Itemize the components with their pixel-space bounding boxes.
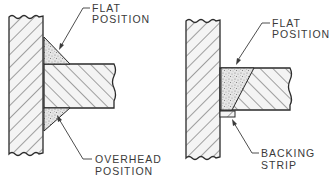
left-top-fillet-weld (44, 37, 70, 64)
left-vertical-plate-hatch (9, 16, 43, 156)
left-horizontal-plate-hatch (44, 64, 116, 108)
backing-strip-leader (234, 123, 259, 153)
backing-strip-label-line2: STRIP (261, 160, 297, 171)
backing-strip-label-line1: BACKING (261, 148, 315, 159)
backing-strip-arrowhead (232, 119, 237, 126)
left-flat-label-line2: POSITION (92, 14, 150, 25)
left-bottom-fillet-weld (44, 108, 70, 131)
left-figure (9, 8, 116, 159)
left-overhead-label-line1: OVERHEAD (95, 154, 162, 165)
right-flat-arrowhead (236, 58, 241, 65)
left-flat-leader (61, 8, 90, 46)
backing-strip-hatch (220, 111, 235, 117)
left-flat-arrowhead (59, 43, 64, 50)
left-overhead-label-line2: POSITION (95, 166, 153, 177)
right-vertical-plate-hatch (186, 20, 220, 160)
left-overhead-leader (59, 119, 92, 159)
right-flat-leader (238, 23, 270, 60)
right-figure (186, 20, 292, 160)
right-flat-label-line2: POSITION (272, 29, 330, 40)
